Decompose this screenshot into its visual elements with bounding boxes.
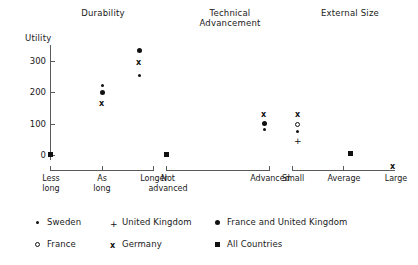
- x-axis-line-technical: [166, 170, 270, 171]
- legend-label-germany: Germany: [122, 239, 162, 249]
- legend-glyph-france-circle: [35, 240, 45, 250]
- x-tick-external-size-average: [343, 166, 344, 170]
- panel-title-durability: Durability: [53, 8, 153, 18]
- data-point-germany-as-long: x: [99, 101, 104, 107]
- y-axis-title: Utility: [25, 33, 51, 43]
- legend-glyph-united-kingdom-plus: +: [110, 218, 120, 228]
- data-point-sweden-small: [296, 130, 299, 133]
- x-tick-label-as-long: As long: [82, 174, 122, 193]
- data-point-france-uk-longer: [137, 48, 142, 53]
- legend-glyph-all-countries-square: [215, 240, 225, 250]
- x-tick-label-less-long: Less long: [31, 174, 71, 193]
- data-point-all-countries-not-advanced: [164, 152, 169, 157]
- data-point-sweden-advanced: [263, 128, 266, 131]
- data-point-germany-advanced: x: [261, 112, 266, 118]
- data-point-germany-small: x: [295, 112, 300, 118]
- x-tick-label-not-advanced: Not advanced: [146, 174, 190, 193]
- x-axis-line-external-size: [292, 170, 395, 171]
- legend-glyph-sweden-dot-small: [35, 218, 45, 228]
- data-point-all-countries-less-long: [48, 152, 53, 157]
- x-tick-label-small: Small: [274, 174, 312, 184]
- legend: Sweden + United Kingdom France and Unite…: [0, 208, 418, 260]
- y-tick-300: [50, 61, 55, 62]
- x-tick-label-large: Large: [377, 174, 415, 184]
- x-tick-durability-as-long: [102, 166, 103, 170]
- legend-glyph-germany-cross: x: [110, 240, 120, 250]
- y-tick-100: [50, 124, 55, 125]
- data-point-germany-longer: x: [136, 60, 141, 66]
- x-tick-label-average: Average: [323, 174, 365, 184]
- data-point-germany-large: x: [390, 164, 395, 170]
- data-point-sweden-as-long: [101, 84, 104, 87]
- data-point-sweden-longer: [138, 74, 141, 77]
- legend-label-france: France: [47, 239, 76, 249]
- y-tick-200: [50, 92, 55, 93]
- legend-label-sweden: Sweden: [47, 217, 81, 227]
- y-tick-label-300: 300: [14, 56, 46, 66]
- y-tick-label-200: 200: [14, 87, 46, 97]
- x-axis-line-durability: [50, 170, 154, 171]
- x-axis-endcap-right-technical: [269, 166, 270, 171]
- y-tick-label-0: 0: [14, 150, 46, 160]
- x-axis-endcap-left-durability: [50, 166, 51, 171]
- data-point-all-countries-average: [348, 151, 353, 156]
- legend-label-all-countries: All Countries: [227, 239, 282, 249]
- panel-title-external-size: External Size: [295, 8, 405, 18]
- x-axis-endcap-left-technical: [166, 166, 167, 171]
- x-axis-endcap-left-external-size: [292, 166, 293, 171]
- legend-glyph-france-uk-dot-large: [215, 218, 225, 228]
- chart-figure: Durability Technical Advancement Externa…: [0, 0, 418, 265]
- legend-label-france-and-united-kingdom: France and United Kingdom: [227, 217, 347, 227]
- data-point-france-uk-as-long: [100, 90, 105, 95]
- y-tick-label-100: 100: [14, 119, 46, 129]
- x-axis-endcap-right-durability: [153, 166, 154, 171]
- data-point-france-uk-advanced: [262, 121, 267, 126]
- panel-title-technical-advancement: Technical Advancement: [175, 8, 285, 28]
- data-point-france-small: [295, 122, 300, 127]
- y-axis-line: [50, 45, 51, 160]
- data-point-united-kingdom-small: +: [294, 138, 302, 144]
- legend-label-united-kingdom: United Kingdom: [122, 217, 192, 227]
